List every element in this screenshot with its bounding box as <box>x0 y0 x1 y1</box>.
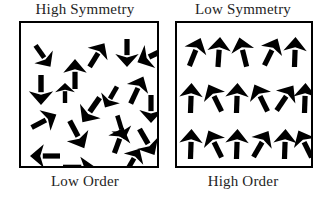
arrow-box-left <box>19 21 159 168</box>
arrow-glyph <box>63 59 86 89</box>
arrow-glyph <box>244 79 278 116</box>
arrow-glyph <box>283 37 307 68</box>
panel-high-symmetry: High Symmetry Low Order <box>6 0 164 199</box>
arrow-glyph <box>107 113 134 143</box>
arrow-glyph <box>26 39 59 73</box>
arrow-glyph <box>267 79 303 117</box>
arrow-glyph <box>29 75 53 105</box>
arrow-box-right <box>175 21 313 168</box>
arrow-field-ordered <box>177 23 311 166</box>
arrow-glyph <box>59 115 95 154</box>
arrow-glyph <box>288 125 311 162</box>
arrow-glyph <box>55 83 75 103</box>
panel-bottom-label-left: Low Order <box>6 173 164 190</box>
arrow-glyph <box>30 144 60 166</box>
arrow-glyph <box>206 36 231 68</box>
arrow-glyph <box>293 83 311 114</box>
arrow-glyph <box>254 33 288 70</box>
arrow-glyph <box>63 157 95 166</box>
arrow-glyph <box>273 129 297 160</box>
arrow-glyph <box>96 81 127 113</box>
arrow-field-random <box>21 23 157 166</box>
panel-bottom-label-right: High Order <box>166 173 320 190</box>
panel-low-symmetry: Low Symmetry High Order <box>166 0 320 199</box>
panel-top-label-right: Low Symmetry <box>166 1 320 18</box>
comparison-figure: High Symmetry Low Order Low Symmetry Hig… <box>0 0 326 199</box>
arrow-glyph <box>228 35 258 70</box>
arrow-glyph <box>115 39 138 67</box>
arrow-glyph <box>117 143 149 166</box>
arrow-glyph <box>179 83 203 114</box>
arrow-glyph <box>80 37 115 73</box>
arrow-glyph <box>139 95 157 123</box>
arrow-glyph <box>198 125 232 162</box>
arrow-glyph <box>225 129 249 160</box>
panel-top-label-left: High Symmetry <box>6 1 164 18</box>
arrow-glyph <box>243 125 278 163</box>
arrow-glyph <box>179 129 203 160</box>
arrow-glyph <box>198 79 232 116</box>
arrow-glyph <box>26 104 62 138</box>
arrow-glyph <box>179 34 212 71</box>
arrow-glyph <box>225 83 249 114</box>
